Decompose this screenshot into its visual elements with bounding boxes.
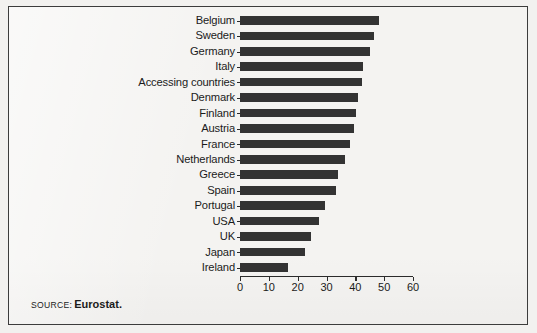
- x-axis-tick-label: 40: [349, 281, 361, 293]
- category-label: USA: [0, 214, 240, 229]
- bar-row: Germany: [240, 44, 413, 59]
- bar-chart: BelgiumSwedenGermanyItalyAccessing count…: [9, 7, 527, 324]
- bar: [240, 263, 288, 272]
- bar: [240, 140, 350, 149]
- x-axis-tick-label: 0: [237, 281, 243, 293]
- source-label: SOURCE:: [31, 300, 72, 310]
- bar: [240, 201, 325, 210]
- bar-row: Portugal: [240, 198, 413, 213]
- category-label: France: [0, 137, 240, 152]
- bar-row: Italy: [240, 59, 413, 74]
- x-axis-tick-label: 30: [320, 281, 332, 293]
- x-axis-tick-label: 60: [407, 281, 419, 293]
- category-label: Italy: [0, 59, 240, 74]
- figure-panel: BelgiumSwedenGermanyItalyAccessing count…: [0, 0, 537, 333]
- bar-row: USA: [240, 214, 413, 229]
- bar-row: Accessing countries: [240, 75, 413, 90]
- bar: [240, 16, 379, 25]
- x-axis-tick-label: 50: [378, 281, 390, 293]
- bar-row: Denmark: [240, 90, 413, 105]
- x-axis-ticks: 0102030405060: [240, 277, 413, 293]
- bar-row: Belgium: [240, 13, 413, 28]
- plot-area: BelgiumSwedenGermanyItalyAccessing count…: [27, 13, 507, 293]
- source-note: SOURCE:Eurostat.: [31, 298, 122, 310]
- bar: [240, 124, 354, 133]
- figure-frame: BelgiumSwedenGermanyItalyAccessing count…: [8, 6, 528, 325]
- bar-row: UK: [240, 229, 413, 244]
- category-label: Denmark: [0, 90, 240, 105]
- bar-row: France: [240, 137, 413, 152]
- bar: [240, 217, 319, 226]
- source-value: Eurostat.: [74, 298, 122, 310]
- bar-row: Greece: [240, 167, 413, 182]
- category-label: Finland: [0, 106, 240, 121]
- category-label: Austria: [0, 121, 240, 136]
- bar: [240, 78, 362, 87]
- category-label: Portugal: [0, 198, 240, 213]
- category-label: Japan: [0, 245, 240, 260]
- x-axis-tick-label: 20: [292, 281, 304, 293]
- bar: [240, 62, 363, 71]
- category-label: Accessing countries: [0, 75, 240, 90]
- bar: [240, 47, 370, 56]
- category-label: Ireland: [0, 260, 240, 275]
- bar-row: Netherlands: [240, 152, 413, 167]
- bar: [240, 155, 345, 164]
- bar-row: Spain: [240, 183, 413, 198]
- bar: [240, 248, 305, 257]
- category-label: Germany: [0, 44, 240, 59]
- x-axis-tick-label: 10: [263, 281, 275, 293]
- bar: [240, 186, 336, 195]
- category-label: Greece: [0, 167, 240, 182]
- bar: [240, 32, 374, 41]
- category-label: UK: [0, 229, 240, 244]
- bar-rows: BelgiumSwedenGermanyItalyAccessing count…: [240, 13, 413, 275]
- bar-row: Ireland: [240, 260, 413, 275]
- bar: [240, 109, 356, 118]
- category-label: Spain: [0, 183, 240, 198]
- bar-row: Sweden: [240, 28, 413, 43]
- category-label: Belgium: [0, 13, 240, 28]
- bar-row: Finland: [240, 106, 413, 121]
- bar-row: Austria: [240, 121, 413, 136]
- bar: [240, 232, 311, 241]
- bar: [240, 93, 358, 102]
- bar-row: Japan: [240, 245, 413, 260]
- category-label: Sweden: [0, 28, 240, 43]
- bar: [240, 170, 338, 179]
- category-label: Netherlands: [0, 152, 240, 167]
